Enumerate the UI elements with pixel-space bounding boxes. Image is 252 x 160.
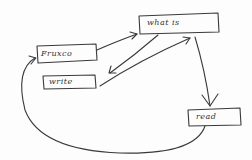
edge-read-to-focus [22, 58, 205, 153]
node-label-focus: Fruxco [41, 49, 72, 58]
node-label-write: write [49, 77, 73, 86]
edge-write-to-what-is [100, 38, 190, 86]
node-label-what-is: what is [147, 18, 180, 27]
node-label-read: read [196, 112, 216, 121]
edge-focus-to-what-is [97, 34, 137, 50]
diagram-strokes [0, 0, 252, 160]
edge-what-is-to-write [110, 35, 158, 73]
diagram-canvas: Fruxco what is write read [0, 0, 252, 160]
